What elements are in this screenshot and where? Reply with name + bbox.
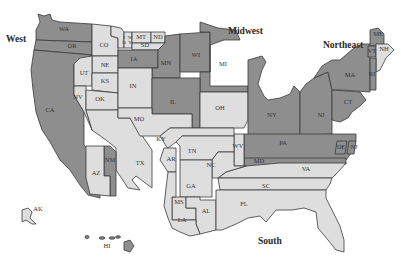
state-label-sd: SD — [141, 41, 150, 48]
state-label-ky: KY — [156, 135, 166, 142]
state-label-nm: NM — [105, 156, 116, 163]
state-label-pa: PA — [279, 139, 287, 146]
state-label-de: DE — [337, 143, 346, 150]
state-label-sc: SC — [262, 182, 270, 189]
region-label-midwest: Midwest — [228, 26, 264, 36]
state-ny[interactable] — [248, 56, 300, 136]
state-label-il: IL — [170, 98, 176, 105]
state-label-mo: MO — [134, 115, 145, 122]
state-label-tn: TN — [188, 147, 197, 154]
state-label-ma: MA — [345, 71, 356, 78]
state-label-co: CO — [99, 41, 108, 48]
state-label-oh: OH — [215, 104, 225, 111]
state-label-nj: NJ — [317, 111, 325, 118]
state-label-fl: FL — [240, 200, 248, 207]
state-label-al: AL — [202, 207, 211, 214]
region-label-south: South — [258, 236, 282, 246]
hawaii-island-4 — [116, 236, 121, 238]
state-label-ct: CT — [344, 98, 352, 105]
state-label-ar: AR — [166, 155, 176, 162]
state-label-hi: HI — [104, 242, 111, 249]
state-label-md: MD — [254, 157, 265, 164]
state-label-wv: WV — [233, 142, 244, 149]
state-ct[interactable] — [332, 90, 366, 122]
state-label-vt: VT — [368, 47, 377, 54]
state-label-va: VA — [302, 165, 311, 172]
hawaii-island-2 — [99, 237, 105, 239]
state-label-ny: NY — [267, 111, 277, 118]
state-label-ia: IA — [131, 55, 138, 62]
hawaii-island-1 — [85, 236, 89, 239]
us-region-map: WAORCACOIDWYMTNDSDNEUTKSNVOKIAMNWIMIINIL… — [0, 0, 401, 261]
state-label-ut: UT — [80, 69, 89, 76]
state-label-tx: TX — [136, 159, 145, 166]
state-label-ms: MS — [174, 198, 184, 205]
state-label-ri: RI — [369, 70, 376, 77]
state-label-ga: GA — [186, 182, 196, 189]
state-label-me: ME — [373, 30, 383, 37]
state-label-mn: MN — [161, 59, 172, 66]
state-label-in: IN — [130, 82, 137, 89]
region-label-west: West — [6, 34, 27, 44]
state-label-nd: ND — [153, 33, 163, 40]
state-label-nj2: NJ — [350, 143, 358, 150]
state-label-ne: NE — [101, 61, 110, 68]
state-label-mt: MT — [136, 33, 146, 40]
state-wv[interactable] — [234, 134, 244, 166]
state-label-ok: OK — [95, 95, 105, 102]
state-nj[interactable] — [300, 72, 332, 136]
state-label-ca: CA — [45, 106, 54, 113]
state-label-wa: WA — [59, 25, 69, 32]
state-ia[interactable] — [118, 50, 158, 68]
state-label-nh: NH — [379, 45, 389, 52]
state-label-or: OR — [67, 42, 77, 49]
state-label-mi: MI — [219, 60, 227, 67]
state-label-az: AZ — [92, 169, 101, 176]
state-sc[interactable] — [218, 178, 332, 190]
state-label-ak: AK — [33, 205, 43, 212]
state-label-nv: NV — [73, 93, 83, 100]
region-label-northeast: Northeast — [323, 40, 364, 50]
state-label-nc: NC — [206, 161, 215, 168]
hawaii-island-3 — [109, 237, 115, 239]
state-label-ks: KS — [101, 77, 110, 84]
state-hi[interactable] — [124, 240, 134, 252]
state-label-wi: WI — [192, 51, 200, 58]
state-label-la: LA — [178, 216, 187, 223]
